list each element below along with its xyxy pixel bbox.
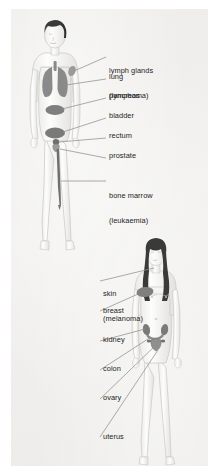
label-rectum: rectum [109, 132, 132, 141]
label-colon: colon [103, 365, 121, 374]
leader-lymph-glands [74, 57, 106, 71]
label-lymph-glands: lymph glands (lymphoma) [109, 50, 153, 117]
pancreas-marker [46, 105, 65, 115]
label-bladder: bladder [109, 112, 134, 121]
label-bone-marrow: bone marrow (leukaemia) [109, 175, 153, 242]
label-ovary: ovary [103, 394, 121, 403]
label-kidney: kidney [103, 336, 125, 345]
cancer-sites-diagram-panel: lymph glands (lymphoma) lung pancreas bl… [11, 9, 208, 466]
ovary-right-marker [161, 339, 165, 342]
label-pancreas: pancreas [109, 92, 140, 101]
label-lung: lung [109, 73, 123, 82]
ovary-left-marker [147, 339, 151, 342]
label-uterus: uterus [103, 433, 124, 442]
label-breast: breast [103, 307, 124, 316]
bladder-marker [45, 128, 65, 139]
label-prostate: prostate [109, 152, 136, 161]
trachea-marker [54, 61, 57, 71]
